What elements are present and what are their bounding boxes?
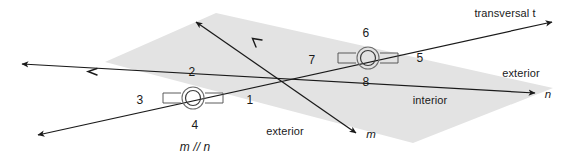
angle-label-2: 2 bbox=[189, 66, 196, 78]
transversal-label: transversal t bbox=[474, 8, 535, 19]
interior-shaded-region bbox=[105, 13, 553, 143]
angle-label-8: 8 bbox=[363, 76, 370, 88]
exterior-label-right: exterior bbox=[502, 68, 539, 79]
line-n-label: n bbox=[545, 89, 552, 101]
intersection-marker-lower bbox=[182, 87, 204, 109]
tick-left-lower bbox=[163, 93, 181, 103]
parallel-notation: m // n bbox=[180, 141, 211, 153]
transversal-label-prefix: transversal bbox=[474, 7, 532, 19]
angle-label-6: 6 bbox=[363, 27, 370, 39]
angle-label-7: 7 bbox=[309, 54, 316, 66]
transversal-label-symbol: t bbox=[532, 7, 535, 19]
figure-canvas bbox=[0, 0, 574, 167]
interior-label: interior bbox=[413, 95, 447, 106]
angle-label-4: 4 bbox=[192, 119, 199, 131]
line-n-direction-chevron bbox=[88, 69, 97, 76]
angle-label-3: 3 bbox=[137, 94, 144, 106]
angle-label-5: 5 bbox=[417, 52, 424, 64]
line-m-label: m bbox=[366, 129, 376, 141]
angle-label-1: 1 bbox=[247, 94, 254, 106]
geometry-figure: 1 2 3 4 5 6 7 8 interior exterior exteri… bbox=[0, 0, 574, 167]
exterior-label-bottom: exterior bbox=[266, 126, 303, 137]
